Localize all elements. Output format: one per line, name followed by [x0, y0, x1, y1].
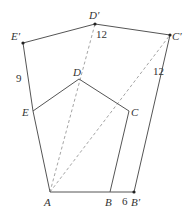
- measure-cprime: 12: [153, 65, 164, 77]
- segment-eprime-e: [23, 43, 33, 111]
- point-dprime: [93, 22, 96, 25]
- segment-d-e: [33, 79, 79, 111]
- measure-dprime: 12: [96, 28, 107, 40]
- label-eprime: E′: [10, 30, 21, 42]
- label-e: E: [21, 106, 29, 118]
- label-b: B: [105, 196, 112, 208]
- measure-b-bprime: 6: [122, 195, 128, 207]
- label-dprime: D′: [88, 9, 100, 21]
- label-cprime: C′: [172, 30, 182, 42]
- segment-dprime-eprime: [23, 24, 95, 43]
- measure-eprime: 9: [16, 72, 22, 84]
- label-c: C: [131, 106, 139, 118]
- label-bprime: B′: [131, 196, 141, 208]
- dashed-segment-a-dprime: [50, 24, 95, 192]
- point-bprime: [132, 190, 135, 193]
- label-a: A: [43, 196, 51, 208]
- segment-c-d: [79, 79, 129, 111]
- pentagon-diagram: D′ E′ C′ D E C A B B′ 12 9 12 6: [0, 0, 190, 217]
- segment-b-c: [110, 111, 129, 192]
- point-eprime: [21, 41, 24, 44]
- segment-e-a: [33, 111, 50, 192]
- label-d: D: [72, 66, 81, 78]
